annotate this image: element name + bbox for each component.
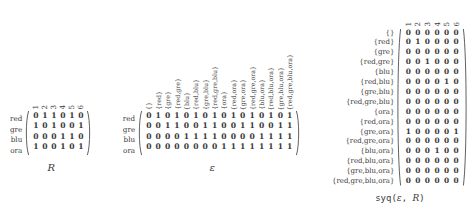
row-label: blu [11,135,25,145]
matrix-cell: 1 [200,121,209,131]
matrix-cell: 1 [76,142,85,152]
row-label: {gre,blu,ora} [346,167,396,177]
matrix-cell: 0 [58,111,67,121]
matrix-cell: 0 [442,176,452,186]
matrix-R-caption: R [47,162,55,173]
matrix-cell: 0 [442,67,452,77]
matrix-cell: 0 [413,67,423,77]
column-header: 3 [423,22,433,27]
matrix-cell: 1 [154,111,163,121]
matrix-cell: 0 [67,121,76,131]
row-label: {red,blu} [360,78,396,88]
matrix-cell: 0 [67,142,76,152]
matrix-cell: 0 [200,111,209,121]
right-paren-icon [296,110,301,156]
matrix-cell: 0 [219,121,228,131]
matrix-cell: 0 [451,77,461,87]
matrix-row: 0 0 0 0 0 0 [403,166,461,176]
matrix-cell: 0 [31,111,40,121]
matrix-cell: 0 [432,37,442,47]
matrix-R-header-spacer: red [10,100,24,110]
matrix-cell: 0 [432,176,442,186]
matrix-cell: 0 [172,132,181,142]
matrix-block-R: red 1 2 3 4 5 6 red gre blu ora [10,100,92,173]
matrix-cell: 0 [413,47,423,57]
matrix-epsilon-grid: 0 1 0 1 0 1 0 1 0 1 0 1 0 [142,110,296,156]
column-header: 1 [31,105,40,110]
matrix-cell: 0 [403,136,413,146]
column-header-label: {gre,blu,ora} [276,67,285,110]
row-label: {red,blu,ora} [346,157,396,167]
matrix-syq-parenthesized-grid: 0 0 0 0 0 0 0 1 0 0 0 [396,27,468,188]
left-paren-icon [137,110,142,156]
matrix-cell: 0 [423,87,433,97]
column-header: 3 [49,105,58,110]
matrix-cell: 0 [432,136,442,146]
column-header-label: 4 [58,105,67,110]
matrix-cell: 0 [442,166,452,176]
matrix-cell: 1 [76,121,85,131]
matrix-cell: 0 [403,166,413,176]
matrix-R: red 1 2 3 4 5 6 red gre blu ora [10,100,92,156]
matrix-cell: 0 [266,121,275,131]
row-label: {red,ora} [360,118,397,128]
row-label: {red} [374,38,397,48]
matrix-cell: 1 [163,121,172,131]
matrix-cell: 0 [423,166,433,176]
matrix-cell: 0 [403,77,413,87]
matrix-cell: 0 [257,111,266,121]
matrix-cell: 0 [144,142,153,152]
matrix-row: 0 0 0 0 0 0 0 0 1 1 1 1 1 [144,142,294,152]
matrix-cell: 0 [210,142,219,152]
matrix-cell: 0 [442,87,452,97]
matrix-cell: 0 [219,132,228,142]
matrix-cell: 0 [403,176,413,186]
matrix-R-column-headers: 1 2 3 4 5 6 [24,105,87,110]
matrix-syq-header-row: {red,gre,blu,ora} 1 2 3 4 5 6 [332,17,463,27]
matrix-cell: 1 [285,111,294,121]
column-header: 1 [403,22,413,27]
matrix-row: 1 0 1 0 0 1 [31,121,85,131]
column-header-label: {gre} [163,91,172,110]
column-header-label: {red,gre} [173,78,182,110]
matrix-row: 0 0 0 0 0 0 [403,136,461,146]
matrix-epsilon-column-headers: {} {red} {gre} {red,gre} {blu} {red,blu}… [137,54,296,110]
matrix-cell: 0 [423,97,433,107]
matrix-cell: 0 [163,142,172,152]
matrix-row: 1 0 0 1 0 1 [31,142,85,152]
matrix-cell: 1 [67,111,76,121]
matrix-cell: 0 [423,156,433,166]
matrix-cell: 0 [154,142,163,152]
row-label: ora [123,146,137,156]
matrix-cell: 0 [76,111,85,121]
column-header: {gre,blu,ora} [276,67,285,110]
matrix-row: 0 0 0 0 1 0 [403,77,461,87]
matrix-cell: 1 [257,132,266,142]
row-label: blu [124,135,138,145]
matrix-cell: 0 [403,97,413,107]
matrix-syq-caption: syq(ε, R) [375,193,425,203]
matrix-cell: 1 [247,142,256,152]
column-header-label: {gre,blu} [201,79,210,110]
matrix-cell: 1 [210,121,219,131]
matrix-cell: 0 [40,142,49,152]
matrix-cell: 0 [76,132,85,142]
matrix-epsilon-body: red gre blu ora 0 1 0 1 [123,110,302,156]
matrix-cell: 0 [144,121,153,131]
matrix-cell: 0 [451,37,461,47]
matrix-cell: 0 [442,97,452,107]
matrix-R-row-labels: red gre blu ora [10,114,24,156]
column-header: {ora} [219,91,228,110]
matrix-cell: 1 [247,121,256,131]
column-header: {gre,blu} [200,79,209,110]
matrix-cell: 1 [172,121,181,131]
row-label: {gre,blu} [360,88,396,98]
matrix-cell: 0 [413,28,423,38]
matrix-cell: 0 [451,47,461,57]
matrix-cell: 0 [442,57,452,67]
column-header-label: {ora} [219,91,228,110]
matrix-cell: 0 [413,97,423,107]
syq-prefix: syq( [375,193,397,203]
matrix-block-epsilon: red {} {red} {gre} {red,gre} {blu} {red,… [123,54,302,173]
matrix-cell: 0 [200,142,209,152]
